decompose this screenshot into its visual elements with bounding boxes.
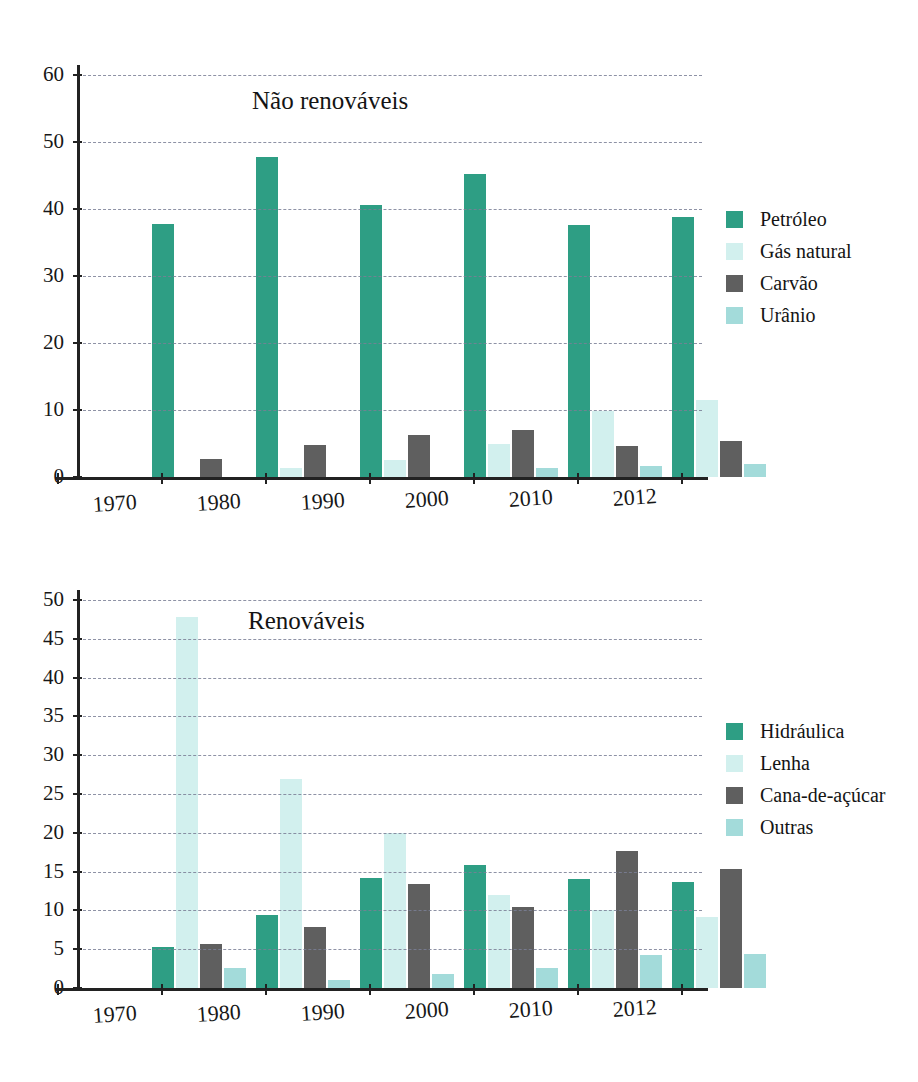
legend-label: Urânio bbox=[760, 305, 816, 325]
legend-swatch-icon bbox=[726, 723, 743, 740]
legend-item[interactable]: Gás natural bbox=[726, 235, 852, 267]
y-axis-label: 25 bbox=[8, 783, 64, 804]
bar bbox=[512, 430, 534, 477]
x-axis-tick bbox=[369, 473, 371, 484]
x-axis-tick bbox=[57, 984, 59, 995]
y-axis-label: 20 bbox=[8, 332, 64, 353]
bar bbox=[408, 435, 430, 477]
bar bbox=[640, 466, 662, 477]
gridline bbox=[78, 276, 702, 277]
x-axis-tick bbox=[681, 473, 683, 484]
legend-swatch-icon bbox=[726, 819, 743, 836]
gridline bbox=[78, 209, 702, 210]
bar bbox=[744, 464, 766, 477]
bar bbox=[224, 968, 246, 988]
legend-item[interactable]: Lenha bbox=[726, 747, 885, 779]
y-axis-label: 10 bbox=[8, 899, 64, 920]
legend-swatch-icon bbox=[726, 755, 743, 772]
gridline bbox=[78, 794, 702, 795]
x-axis-label: 1980 bbox=[196, 1001, 241, 1026]
legend-nao-renovaveis: PetróleoGás naturalCarvãoUrânio bbox=[726, 203, 852, 331]
legend-label: Hidráulica bbox=[760, 721, 844, 741]
legend-label: Outras bbox=[760, 817, 813, 837]
bar bbox=[488, 895, 510, 988]
x-axis-tick bbox=[577, 473, 579, 484]
bar bbox=[408, 884, 430, 988]
bar bbox=[464, 174, 486, 478]
legend-item[interactable]: Petróleo bbox=[726, 203, 852, 235]
x-axis-label: 1990 bbox=[300, 1000, 345, 1025]
legend-label: Petróleo bbox=[760, 209, 827, 229]
y-axis-label: 60 bbox=[8, 64, 64, 85]
bar bbox=[616, 446, 638, 477]
gridline bbox=[78, 410, 702, 411]
gridline bbox=[78, 716, 702, 717]
y-axis-label: 40 bbox=[8, 667, 64, 688]
y-axis-label: 30 bbox=[8, 265, 64, 286]
bar bbox=[304, 445, 326, 477]
y-axis-label: 15 bbox=[8, 861, 64, 882]
gridline bbox=[78, 833, 702, 834]
bar bbox=[592, 411, 614, 477]
bar bbox=[256, 915, 278, 988]
bar bbox=[384, 460, 406, 477]
x-axis-label: 2012 bbox=[612, 485, 657, 510]
bar bbox=[720, 441, 742, 477]
x-axis-tick bbox=[473, 984, 475, 995]
x-axis bbox=[56, 988, 708, 991]
gridline bbox=[78, 75, 702, 76]
x-axis-tick bbox=[369, 984, 371, 995]
bar bbox=[360, 205, 382, 477]
y-axis-label: 20 bbox=[8, 822, 64, 843]
gridline bbox=[78, 600, 702, 601]
legend-item[interactable]: Cana-de-açúcar bbox=[726, 779, 885, 811]
bar bbox=[720, 869, 742, 989]
y-axis-label: 30 bbox=[8, 744, 64, 765]
bar bbox=[328, 980, 350, 988]
legend-item[interactable]: Outras bbox=[726, 811, 885, 843]
chart-renovaveis: Renováveis 05101520253035404550197019801… bbox=[0, 540, 918, 1082]
bar bbox=[536, 468, 558, 477]
gridline bbox=[78, 910, 702, 911]
gridline bbox=[78, 755, 702, 756]
legend-item[interactable]: Hidráulica bbox=[726, 715, 885, 747]
legend-item[interactable]: Carvão bbox=[726, 267, 852, 299]
legend-label: Lenha bbox=[760, 753, 810, 773]
x-axis-label: 2012 bbox=[612, 996, 657, 1021]
x-axis-label: 1990 bbox=[300, 489, 345, 514]
legend-swatch-icon bbox=[726, 243, 743, 260]
bar bbox=[256, 157, 278, 477]
bar bbox=[672, 217, 694, 477]
x-axis-tick bbox=[265, 984, 267, 995]
legend-swatch-icon bbox=[726, 275, 743, 292]
gridline bbox=[78, 949, 702, 950]
legend-label: Gás natural bbox=[760, 241, 852, 261]
bar bbox=[536, 968, 558, 988]
x-axis-label: 2000 bbox=[404, 487, 449, 512]
y-axis bbox=[77, 590, 80, 990]
y-axis-label: 50 bbox=[8, 131, 64, 152]
bar bbox=[200, 944, 222, 988]
gridline bbox=[78, 678, 702, 679]
bar bbox=[200, 459, 222, 477]
bar bbox=[360, 878, 382, 988]
gridline bbox=[78, 142, 702, 143]
bar bbox=[176, 617, 198, 988]
x-axis-tick bbox=[473, 473, 475, 484]
x-axis-tick bbox=[577, 984, 579, 995]
bar bbox=[568, 879, 590, 988]
x-axis-tick bbox=[681, 984, 683, 995]
x-axis-tick bbox=[161, 473, 163, 484]
y-axis-label: 50 bbox=[8, 589, 64, 610]
bar bbox=[432, 974, 454, 988]
bar bbox=[696, 400, 718, 477]
bar bbox=[280, 468, 302, 477]
bar bbox=[152, 947, 174, 988]
y-axis-label: 5 bbox=[8, 938, 64, 959]
legend-item[interactable]: Urânio bbox=[726, 299, 852, 331]
bar bbox=[696, 917, 718, 988]
bar bbox=[304, 927, 326, 988]
x-axis-tick bbox=[161, 984, 163, 995]
y-axis-label: 35 bbox=[8, 705, 64, 726]
legend-swatch-icon bbox=[726, 211, 743, 228]
